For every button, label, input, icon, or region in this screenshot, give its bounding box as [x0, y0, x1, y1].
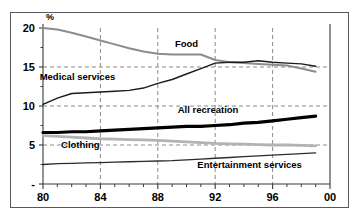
series-label: All recreation	[178, 104, 239, 115]
x-tick-label: 00	[324, 191, 336, 203]
series-label: Clothing	[61, 139, 100, 150]
chart-figure: -5101520808488929600% FoodMedical servic…	[0, 0, 360, 220]
series-line	[43, 116, 316, 132]
y-tick-label: 15	[23, 61, 35, 73]
y-tick-label: 10	[23, 100, 35, 112]
x-tick-label: 96	[266, 191, 278, 203]
series-labels: FoodMedical servicesAll recreationClothi…	[40, 38, 302, 170]
x-tick-label: 88	[152, 191, 164, 203]
x-tick-label: 80	[37, 191, 49, 203]
y-tick-label: 5	[29, 139, 35, 151]
series-label: Medical services	[40, 71, 116, 82]
y-tick-label: 20	[23, 22, 35, 34]
series-line	[43, 28, 316, 72]
x-tick-label: 84	[94, 191, 107, 203]
line-chart: -5101520808488929600% FoodMedical servic…	[0, 0, 360, 220]
y-axis-unit-label: %	[46, 12, 54, 22]
series-label: Food	[175, 38, 198, 49]
x-tick-label: 92	[209, 191, 221, 203]
y-tick-label: -	[31, 178, 35, 190]
series-label: Entertainment services	[197, 159, 302, 170]
